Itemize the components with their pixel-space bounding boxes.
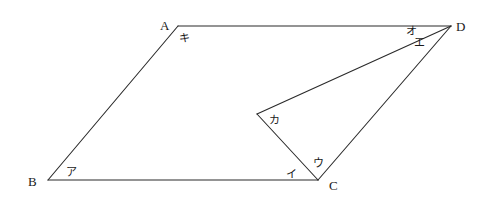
vertex-label-a: A bbox=[160, 18, 170, 33]
angle-label-o: オ bbox=[406, 25, 417, 38]
angle-label-a: ア bbox=[66, 166, 77, 179]
angle-label-i: イ bbox=[286, 168, 297, 181]
vertex-label-c: C bbox=[329, 178, 338, 193]
edge-cd bbox=[318, 26, 451, 180]
angle-label-ka: カ bbox=[269, 114, 280, 127]
angle-label-u: ウ bbox=[313, 157, 324, 170]
vertex-label-d: D bbox=[456, 19, 465, 34]
angle-label-ki: キ bbox=[179, 32, 190, 45]
vertex-label-b: B bbox=[28, 174, 37, 189]
edge-ab bbox=[48, 26, 178, 180]
geometry-diagram: A B C D ア イ ウ エ オ カ キ bbox=[0, 0, 490, 200]
